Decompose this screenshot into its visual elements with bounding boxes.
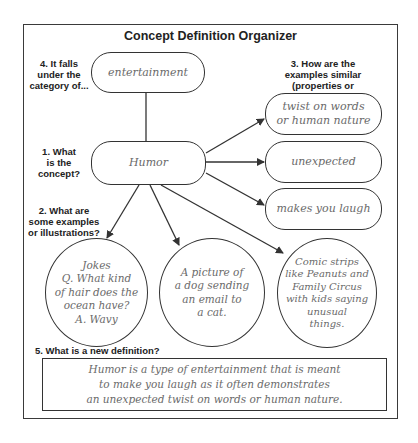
question-1-label: 1. What is the concept?	[30, 146, 88, 179]
characteristic-text: unexpected	[291, 155, 356, 169]
example-circle-1: Jokes Q. What kind of hair does the ocea…	[45, 238, 148, 347]
arrow-to-characteristic-1	[206, 119, 264, 153]
characteristic-box-3: makes you laugh	[265, 188, 382, 230]
example-circle-3: Comic strips like Peanuts and Family Cir…	[277, 238, 377, 348]
category-box: entertainment	[91, 52, 205, 93]
concept-box: Humor	[91, 141, 206, 185]
example-text: Jokes Q. What kind of hair does the ocea…	[55, 259, 138, 327]
example-circle-2: A picture of a dog sending an email to a…	[159, 238, 265, 347]
definition-box: Humor is a type of entertainment that is…	[42, 358, 387, 411]
concept-text: Humor	[129, 156, 168, 170]
characteristic-text: twist on words or human nature	[276, 100, 370, 128]
arrow-to-example-1	[107, 185, 139, 238]
question-4-label: 4. It falls under the category of...	[28, 58, 90, 91]
question-2-label: 2. What are some examples or illustratio…	[28, 205, 100, 238]
category-text: entertainment	[108, 66, 188, 80]
arrow-to-example-2	[150, 185, 179, 245]
characteristic-text: makes you laugh	[276, 202, 370, 216]
characteristic-box-1: twist on words or human nature	[265, 93, 382, 135]
example-text: A picture of a dog sending an email to a…	[175, 266, 250, 320]
arrow-to-characteristic-3	[206, 173, 264, 205]
characteristic-box-2: unexpected	[265, 141, 382, 183]
definition-text: Humor is a type of entertainment that is…	[86, 362, 342, 407]
example-text: Comic strips like Peanuts and Family Cir…	[285, 256, 369, 331]
